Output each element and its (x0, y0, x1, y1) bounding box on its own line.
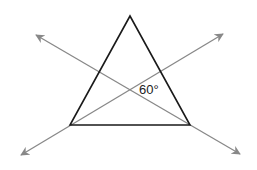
angle-label: 60° (139, 82, 159, 97)
triangle (70, 16, 190, 125)
diagram-canvas: 60° (0, 0, 257, 170)
line-through-bottom-left (21, 34, 223, 155)
line-through-bottom-right (36, 35, 240, 154)
geometry-diagram: 60° (0, 0, 257, 170)
